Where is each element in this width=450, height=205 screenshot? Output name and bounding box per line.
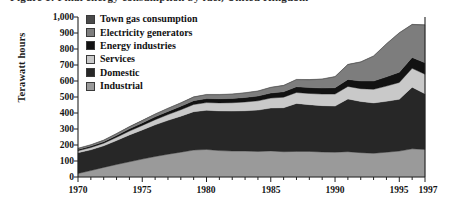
legend-item-domestic[interactable]: Domestic xyxy=(86,67,197,79)
legend-swatch-icon-services xyxy=(86,55,95,64)
legend-label-energy-industries: Energy industries xyxy=(100,41,176,51)
x-axis-tick-marks xyxy=(78,177,425,182)
legend-item-industrial[interactable]: Industrial xyxy=(86,80,197,92)
legend-item-electricity-generators[interactable]: Electricity generators xyxy=(86,26,197,38)
x-tick-1990: 1990 xyxy=(312,186,358,196)
legend-swatch-icon-domestic xyxy=(86,68,95,77)
chart-legend: Town gas consumption Electricity generat… xyxy=(86,13,197,92)
x-tick-1985: 1985 xyxy=(248,186,294,196)
legend-item-town-gas-consumption[interactable]: Town gas consumption xyxy=(86,13,197,25)
legend-label-town-gas-consumption: Town gas consumption xyxy=(100,14,197,24)
y-axis-tick-marks xyxy=(74,17,78,177)
legend-item-energy-industries[interactable]: Energy industries xyxy=(86,40,197,52)
legend-swatch-icon-town-gas-consumption xyxy=(86,15,95,24)
x-tick-1975: 1975 xyxy=(119,186,165,196)
plot-area xyxy=(0,0,450,205)
legend-label-domestic: Domestic xyxy=(100,68,139,78)
x-tick-1980: 1980 xyxy=(183,186,229,196)
legend-label-electricity-generators: Electricity generators xyxy=(100,28,192,38)
legend-swatch-icon-industrial xyxy=(86,82,95,91)
legend-label-services: Services xyxy=(100,54,135,64)
legend-label-industrial: Industrial xyxy=(100,81,143,91)
energy-consumption-area-chart: Figure 1: Final energy consumption by fu… xyxy=(0,0,450,205)
x-tick-1997: 1997 xyxy=(405,186,450,196)
x-tick-1970: 1970 xyxy=(55,186,101,196)
legend-item-services[interactable]: Services xyxy=(86,53,197,65)
legend-swatch-icon-energy-industries xyxy=(86,41,95,50)
legend-swatch-icon-electricity-generators xyxy=(86,28,95,37)
